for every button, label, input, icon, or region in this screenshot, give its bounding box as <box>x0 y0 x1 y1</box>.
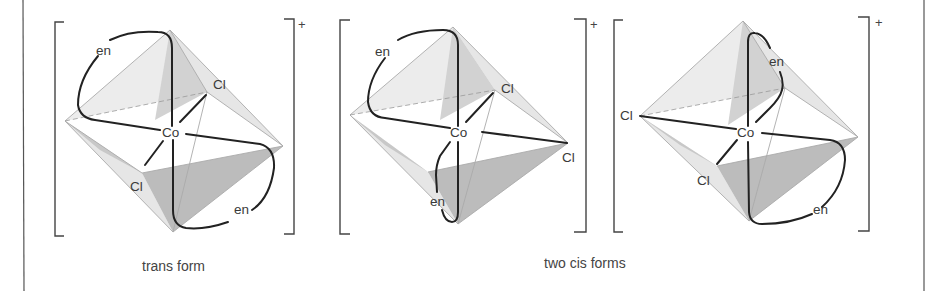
right-bracket <box>574 19 586 232</box>
left-bracket <box>55 22 64 236</box>
charge-plus: + <box>298 17 306 32</box>
charge-plus: + <box>875 15 883 30</box>
cl-label-front: Cl <box>697 173 710 188</box>
right-bracket <box>858 17 869 231</box>
co-label: Co <box>450 125 467 140</box>
cl-label-back: Cl <box>501 81 514 96</box>
cis-isomer-diagram-1: en Cl Co Cl en + <box>340 17 598 234</box>
cl-label-front: Cl <box>130 179 143 194</box>
left-bracket <box>614 20 623 232</box>
co-label: Co <box>162 125 179 140</box>
en-label-top: en <box>96 43 111 58</box>
en-label-top: en <box>769 54 784 69</box>
cis-isomer-diagram-2: en Cl Co Cl en + <box>614 15 883 232</box>
co-label: Co <box>737 125 754 140</box>
left-frame-line <box>23 0 24 291</box>
en-label-bottom: en <box>234 202 249 217</box>
trans-isomer-diagram: en Cl Co Cl en + <box>55 17 306 236</box>
charge-plus: + <box>590 17 598 32</box>
cl-label-right: Cl <box>562 150 575 165</box>
caption-trans: trans form <box>142 258 205 274</box>
left-bracket <box>340 20 350 234</box>
en-label-bottom: en <box>430 194 445 209</box>
right-bracket <box>284 19 294 234</box>
cl-label-left: Cl <box>620 108 633 123</box>
caption-cis: two cis forms <box>544 255 626 271</box>
cl-label-back: Cl <box>213 77 226 92</box>
isomer-figure: en Cl Co Cl en + <box>0 0 932 291</box>
en-label-top: en <box>375 44 390 59</box>
en-label-bottom: en <box>813 202 828 217</box>
